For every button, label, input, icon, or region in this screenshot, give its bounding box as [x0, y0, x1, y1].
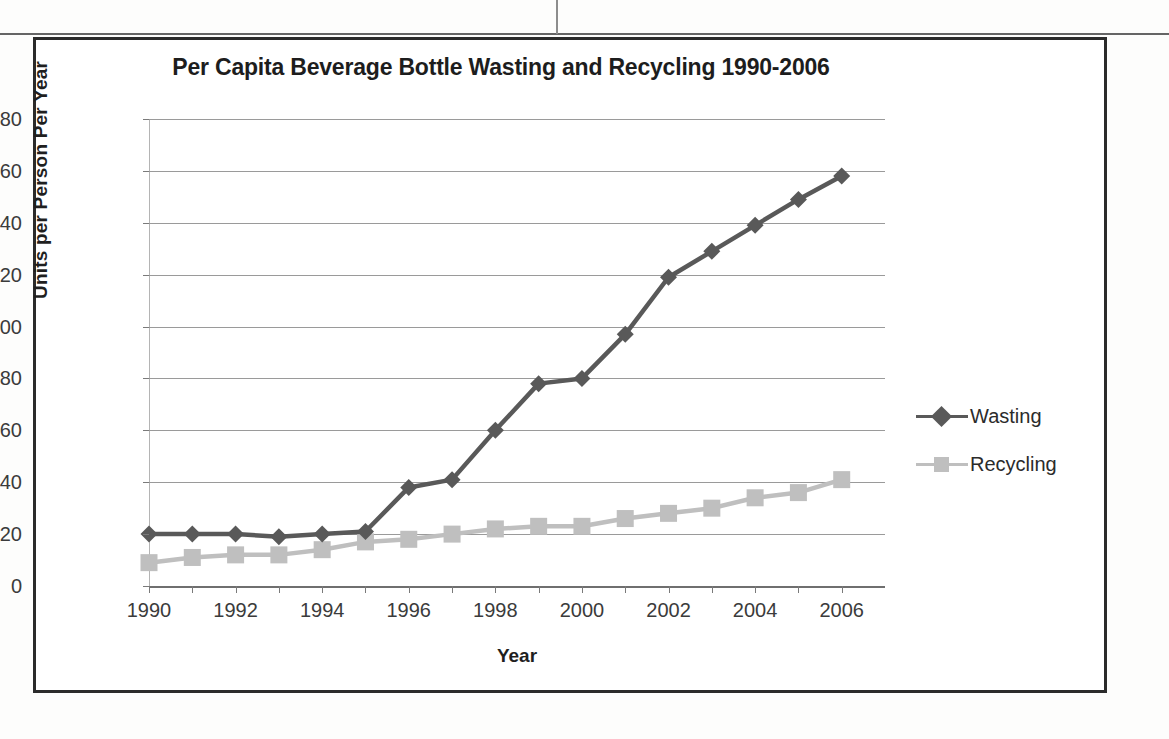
y-axis-tick-label: 100: [0, 316, 22, 339]
page-edge-rule: [0, 33, 1169, 35]
data-point-recycling-2006[interactable]: [833, 471, 850, 488]
legend-swatch-recycling: [916, 453, 968, 475]
x-axis-tick: [365, 586, 366, 593]
y-axis-tick-label: 20: [0, 523, 22, 546]
page-binding-tick: [556, 0, 558, 34]
data-point-recycling-2005[interactable]: [790, 484, 807, 501]
data-point-recycling-2001[interactable]: [617, 510, 634, 527]
plot-area: 199019921994199619982000200220042006 Yea…: [149, 119, 885, 586]
y-axis-tick: [143, 430, 149, 431]
chart-title: Per Capita Beverage Bottle Wasting and R…: [36, 54, 966, 81]
legend-swatch-wasting: [916, 405, 968, 427]
y-axis-tick-label: 180: [0, 108, 22, 131]
chart-container: Per Capita Beverage Bottle Wasting and R…: [33, 37, 1107, 693]
data-point-recycling-1999[interactable]: [530, 518, 547, 535]
y-axis-tick-label: 160: [0, 160, 22, 183]
data-point-recycling-1990[interactable]: [141, 554, 158, 571]
data-point-wasting-2006[interactable]: [833, 168, 850, 185]
y-axis-tick: [143, 586, 149, 587]
x-axis-tick: [192, 586, 193, 593]
chart-legend: Wasting Recycling: [916, 392, 1096, 488]
y-axis-tick: [143, 275, 149, 276]
series-plot: [149, 119, 885, 586]
legend-item-recycling[interactable]: Recycling: [916, 440, 1096, 488]
legend-label-wasting: Wasting: [970, 405, 1042, 428]
legend-label-recycling: Recycling: [970, 453, 1057, 476]
y-axis-tick-label: 120: [0, 264, 22, 287]
x-axis-tick: [236, 586, 237, 593]
x-axis-tick-label: 1996: [374, 599, 444, 622]
y-axis-tick-label: 60: [0, 419, 22, 442]
y-axis-tick-label: 80: [0, 367, 22, 390]
y-axis-tick: [143, 378, 149, 379]
data-point-recycling-1998[interactable]: [487, 520, 504, 537]
data-point-recycling-2003[interactable]: [703, 500, 720, 517]
x-axis-tick: [539, 586, 540, 593]
data-point-wasting-1994[interactable]: [314, 526, 331, 543]
x-axis-tick: [279, 586, 280, 593]
x-axis-tick: [755, 586, 756, 593]
x-axis-title: Year: [149, 645, 885, 667]
data-point-wasting-1992[interactable]: [227, 526, 244, 543]
x-axis-tick: [669, 586, 670, 593]
y-axis-tick: [143, 327, 149, 328]
data-point-recycling-1993[interactable]: [270, 546, 287, 563]
x-axis-tick: [842, 586, 843, 593]
x-axis-tick: [409, 586, 410, 593]
data-point-wasting-1991[interactable]: [184, 526, 201, 543]
data-point-recycling-1996[interactable]: [400, 531, 417, 548]
y-axis-tick: [143, 482, 149, 483]
x-axis-tick: [322, 586, 323, 593]
x-axis-tick-label: 2002: [634, 599, 704, 622]
y-axis-tick-label: 140: [0, 212, 22, 235]
data-point-recycling-1991[interactable]: [184, 549, 201, 566]
x-axis-tick-label: 1990: [114, 599, 184, 622]
x-axis-tick: [625, 586, 626, 593]
square-marker-icon: [934, 457, 949, 472]
data-point-recycling-2002[interactable]: [660, 505, 677, 522]
y-axis-tick: [143, 171, 149, 172]
x-axis-tick-label: 1998: [460, 599, 530, 622]
gridline: [149, 586, 885, 588]
data-point-wasting-1993[interactable]: [270, 528, 287, 545]
x-axis-tick-label: 1992: [201, 599, 271, 622]
x-axis-tick: [582, 586, 583, 593]
legend-item-wasting[interactable]: Wasting: [916, 392, 1096, 440]
y-axis-tick: [143, 223, 149, 224]
y-axis-tick-label: 0: [0, 575, 22, 598]
x-axis-tick-label: 2000: [547, 599, 617, 622]
series-line-wasting: [149, 176, 842, 537]
x-axis-tick: [495, 586, 496, 593]
y-axis-tick: [143, 119, 149, 120]
data-point-recycling-2004[interactable]: [747, 489, 764, 506]
y-axis-tick-labels: 020406080100120140160180: [0, 119, 22, 586]
y-axis-title: Units per Person Per Year: [30, 20, 52, 340]
data-point-recycling-1994[interactable]: [314, 541, 331, 558]
x-axis-tick: [149, 586, 150, 593]
data-point-recycling-2000[interactable]: [573, 518, 590, 535]
x-axis-tick-label: 1994: [287, 599, 357, 622]
x-axis-tick-label: 2004: [720, 599, 790, 622]
data-point-recycling-1997[interactable]: [444, 526, 461, 543]
y-axis-tick-label: 40: [0, 471, 22, 494]
x-axis-tick: [712, 586, 713, 593]
y-axis-tick: [143, 534, 149, 535]
x-axis-tick: [798, 586, 799, 593]
x-axis-tick-label: 2006: [807, 599, 877, 622]
x-axis-tick: [452, 586, 453, 593]
data-point-recycling-1992[interactable]: [227, 546, 244, 563]
diamond-marker-icon: [931, 406, 952, 427]
